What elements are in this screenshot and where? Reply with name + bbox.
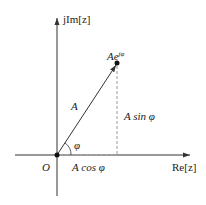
real-axis-label: Re[z]	[172, 161, 196, 173]
phasor-tip-exponent: jφ	[118, 50, 125, 58]
sin-projection-label: A sin φ	[123, 110, 155, 122]
origin-point	[55, 153, 60, 158]
angle-arc	[65, 143, 71, 155]
vector-magnitude-label: A	[70, 100, 78, 112]
phasor-diagram: jIm[z] Re[z] O Aejφ A φ A sin φ A cos φ	[0, 0, 206, 205]
angle-label: φ	[74, 139, 80, 151]
phasor-vector	[57, 65, 116, 155]
phasor-tip-label: Aejφ	[106, 50, 125, 62]
imaginary-axis-label: jIm[z]	[62, 13, 90, 25]
origin-label: O	[42, 161, 50, 173]
phasor-tip-base: Ae	[106, 50, 119, 62]
cos-projection-label: A cos φ	[71, 161, 105, 173]
